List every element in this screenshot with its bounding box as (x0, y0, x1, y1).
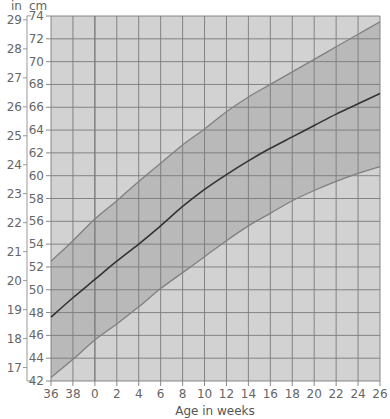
growth-chart: in cm 17181920212223242526272829 4244464… (0, 0, 390, 419)
cm-tick-label: 42 (29, 374, 44, 388)
cm-tick-label: 70 (29, 55, 44, 69)
inch-tick-label: 24 (7, 158, 22, 172)
inch-tick-label: 28 (7, 42, 22, 56)
cm-tick-label: 60 (29, 169, 44, 183)
cm-tick-label: 66 (29, 100, 44, 114)
x-tick-label: 24 (350, 387, 365, 401)
cm-tick-label: 64 (29, 123, 44, 137)
cm-tick-label: 44 (29, 351, 44, 365)
cm-tick-label: 54 (29, 237, 44, 251)
cm-tick-label: 62 (29, 146, 44, 160)
inch-tick-label: 22 (7, 216, 22, 230)
x-tick-label: 10 (197, 387, 212, 401)
inch-tick-label: 25 (7, 129, 22, 143)
x-tick-label: 36 (43, 387, 58, 401)
inch-tick-label: 26 (7, 100, 22, 114)
inch-tick-label: 18 (7, 332, 22, 346)
x-axis-title: Age in weeks (175, 404, 255, 418)
x-tick-label: 6 (157, 387, 165, 401)
x-tick-label: 20 (307, 387, 322, 401)
cm-tick-label: 48 (29, 306, 44, 320)
inch-unit-label: in (11, 0, 22, 13)
cm-tick-label: 52 (29, 260, 44, 274)
x-tick-label: 38 (65, 387, 80, 401)
inch-tick-label: 29 (7, 13, 22, 27)
x-tick-label: 4 (135, 387, 143, 401)
x-tick-label: 26 (372, 387, 387, 401)
x-tick-label: 18 (285, 387, 300, 401)
inch-tick-label: 27 (7, 71, 22, 85)
cm-tick-label: 46 (29, 328, 44, 342)
cm-axis: 4244464850525456586062646668707274 (29, 9, 51, 388)
inch-tick-label: 20 (7, 274, 22, 288)
x-tick-label: 0 (91, 387, 99, 401)
cm-tick-label: 72 (29, 32, 44, 46)
x-axis: 363802468101214161820222426 (43, 381, 387, 401)
cm-tick-label: 50 (29, 283, 44, 297)
x-tick-label: 2 (113, 387, 121, 401)
x-tick-label: 8 (179, 387, 187, 401)
x-tick-label: 12 (219, 387, 234, 401)
inch-tick-label: 21 (7, 245, 22, 259)
x-tick-label: 16 (263, 387, 278, 401)
cm-tick-label: 56 (29, 214, 44, 228)
x-tick-label: 22 (328, 387, 343, 401)
inch-tick-label: 23 (7, 187, 22, 201)
x-tick-label: 14 (241, 387, 256, 401)
cm-tick-label: 68 (29, 77, 44, 91)
cm-tick-label: 74 (29, 9, 44, 23)
inch-tick-label: 17 (7, 361, 22, 375)
inch-tick-label: 19 (7, 303, 22, 317)
cm-tick-label: 58 (29, 192, 44, 206)
